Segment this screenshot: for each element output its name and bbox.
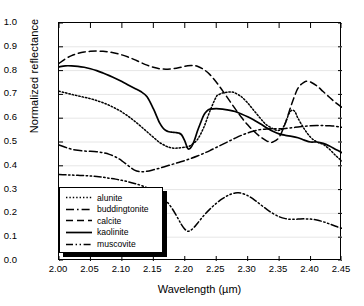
legend-line-sample <box>65 204 93 215</box>
y-axis-title: Normalized reflectance <box>28 0 40 166</box>
x-tick-label: 2.40 <box>293 264 327 274</box>
x-tick-label: 2.20 <box>167 264 201 274</box>
legend-line-sample <box>65 192 93 203</box>
legend-item-calcite: calcite <box>65 215 158 227</box>
y-tick-label: 0.8 <box>0 65 17 75</box>
y-tick-label: 0.3 <box>0 184 17 194</box>
y-tick-label: 0.7 <box>0 88 17 98</box>
series-line-buddingtonite <box>59 126 342 172</box>
x-tick-label: 2.35 <box>261 264 295 274</box>
x-tick-label: 2.10 <box>104 264 138 274</box>
x-tick-label: 2.30 <box>230 264 264 274</box>
y-tick-label: 1.0 <box>0 17 17 27</box>
legend-line-sample <box>65 239 93 250</box>
x-tick-label: 2.00 <box>41 264 75 274</box>
legend-item-label: calcite <box>97 217 121 226</box>
legend-item-label: buddingtonite <box>97 205 149 214</box>
x-axis-title: Wavelength (µm) <box>58 283 341 295</box>
chart-figure: Normalized reflectance 0.00.10.20.30.40.… <box>0 0 364 306</box>
legend-item-label: muscovite <box>97 240 136 249</box>
x-tick-label: 2.15 <box>135 264 169 274</box>
legend-item-kaolinite: kaolinite <box>65 227 158 239</box>
y-tick-label: 0.1 <box>0 231 17 241</box>
legend-item-alunite: alunite <box>65 192 158 204</box>
y-tick-label: 0.5 <box>0 136 17 146</box>
chart-legend: alunitebuddingtonitecalcitekaolinitemusc… <box>59 187 163 253</box>
x-tick-label: 2.45 <box>324 264 358 274</box>
y-tick-label: 0.0 <box>0 255 17 265</box>
y-tick-label: 0.9 <box>0 41 17 51</box>
series-line-calcite <box>59 51 342 142</box>
series-line-kaolinite <box>59 66 342 153</box>
legend-item-label: kaolinite <box>97 228 129 237</box>
y-tick-label: 0.4 <box>0 160 17 170</box>
y-tick-label: 0.2 <box>0 207 17 217</box>
legend-item-muscovite: muscovite <box>65 238 158 250</box>
legend-item-label: alunite <box>97 194 122 203</box>
y-tick-label: 0.6 <box>0 112 17 122</box>
x-tick-label: 2.25 <box>198 264 232 274</box>
legend-line-sample <box>65 227 93 238</box>
legend-line-sample <box>65 215 93 226</box>
legend-item-buddingtonite: buddingtonite <box>65 204 158 216</box>
x-tick-label: 2.05 <box>72 264 106 274</box>
